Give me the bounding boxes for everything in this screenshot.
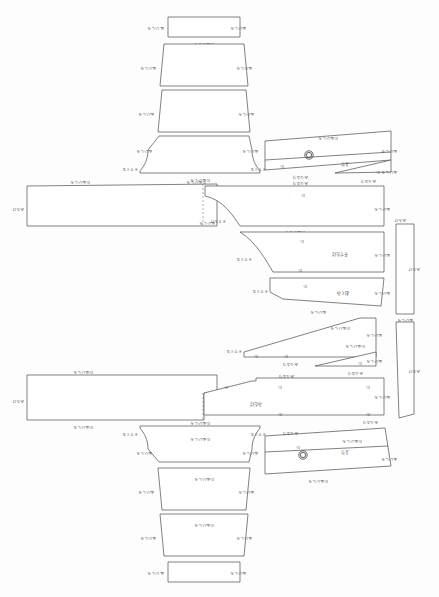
piece-top-trapezoid-upper[interactable]: ぬいしろ ぬいしろ わぬいしろ [139,44,252,96]
edge-label: みたけ [12,207,24,212]
edge-label: わぬいしろ [73,370,94,375]
piece-bottom-yoke-curved[interactable]: わぬいしろ そでぐち そでぐち ぬいしろ ぬいしろ わぬいしろ [121,421,266,462]
edge-label: わ [284,354,288,359]
edge-label: ぬいしろ [229,26,246,31]
edge-label: わ [366,385,370,390]
edge-label: ぬいしろ [135,451,152,456]
pattern-sheet: ぬいしろ ぬいしろ わぬいしろ ぬいしろ ぬいしろ わぬいしろ ぬいしろ ぬいし… [0,0,439,597]
edge-label: わ [300,239,304,244]
edge-label: わぬいしろ [308,479,329,484]
edge-label: わ [366,412,370,417]
edge-label: みつおり [282,362,299,367]
edge-label: わ [278,412,282,417]
piece-top-trapezoid-lower[interactable]: ぬいしろ ぬいしろ わぬいしろ [137,90,254,142]
edge-label: わ [298,268,302,273]
edge-label: わ [278,385,282,390]
piece-right-body-panel-upper[interactable]: みつおり ぬいしろ わぬいしろ そでたけ わ [205,181,390,235]
edge-label: そでぐち [249,167,266,172]
edge-label: ぬいしろ [235,536,252,541]
edge-label: わぬいしろ [186,180,207,185]
center-label: わぬいしろ [194,477,215,482]
edge-label: ぬいしろ [373,207,390,212]
edge-label: ぬいしろ [135,149,152,154]
edge-label: みつおり [292,175,309,180]
edge-label: みたけ [408,267,420,272]
edge-label: みつおり [362,420,379,425]
piece-bottom-trapezoid-lower[interactable]: ぬいしろ ぬいしろ わぬいしろ [139,514,252,556]
edge-label: わ [303,284,307,289]
edge-label: みたけ [12,399,24,404]
edge-label: ぬいしろ [237,490,254,495]
edge-label: ぬいしろ [310,310,327,315]
pattern-drawing: ぬいしろ ぬいしろ わぬいしろ ぬいしろ ぬいしろ わぬいしろ ぬいしろ ぬいし… [0,0,439,597]
edge-label: みたけ [408,369,420,374]
edge-label: ぬいしろ [139,536,156,541]
edge-label: ぬいしろ [365,333,382,338]
edge-label: みつおり [292,181,309,186]
edge-label: わぬいしろ [190,421,211,426]
piece-left-main-panel-upper[interactable]: わぬいしろ わぬいしろ みたけ ぬいしろ [12,180,217,226]
edge-label: わぬいしろ [342,439,363,444]
edge-label: ぬいしろ [241,451,258,456]
edge-label: わぬいしろ [330,326,351,331]
edge-label: そでたけ [209,219,226,224]
piece-okumi-panel-upper[interactable]: ぬいしろ そでぐち わ ぬいしろ おくみ [251,278,390,315]
center-label: おくみ [337,290,349,297]
piece-left-main-panel-lower[interactable]: わぬいしろ みたけ わぬいしろ わぬいしろ [12,370,217,430]
edge-label: ぬいしろ [373,253,390,258]
edge-label: ぬいしろ [147,26,164,31]
edge-label: ぬいしろ [365,359,382,364]
edge-label: そでぐち [121,432,138,437]
edge-label: ぬいしろ [373,395,390,400]
edge-label: そでぐち [249,432,266,437]
piece-bottom-band-rect[interactable]: ぬいしろ ぬいしろ [147,562,246,582]
piece-right-strip-lower[interactable]: みたけ [396,322,420,418]
edge-label: ぬいしろ [241,149,258,154]
piece-bottom-collar-band[interactable]: みつおり わぬいしろ ぬいしろ わぬいしろ わ えり [265,428,397,484]
center-label: わぬいしろ [190,437,211,442]
piece-right-strip-upper[interactable]: みたけ みたけ ぬいしろ [394,218,420,323]
edge-label: ぬいしろ [380,149,397,154]
edge-label: わ [358,361,362,366]
edge-label: わ [280,164,284,169]
edge-label: わ [296,445,300,450]
edge-label: わぬいしろ [70,180,91,185]
edge-label: ぬいしろ [380,457,397,462]
edge-label: そでぐち [225,349,242,354]
edge-label: ぬいしろ [137,490,154,495]
edge-label: みたけ [394,218,406,223]
edge-label: ぬいしろ [147,571,164,576]
center-label: そでたけ [332,251,349,258]
piece-bottom-trapezoid-upper[interactable]: ぬいしろ ぬいしろ わぬいしろ [137,468,254,510]
edge-label: わぬいしろ [345,344,366,349]
edge-label: ぬいしろ [137,112,154,117]
edge-label: ぬいしろ [235,66,252,71]
edge-label: わ [376,170,380,175]
center-label: わ [301,193,305,198]
center-label: わぬいしろ [194,523,215,528]
edge-label: そでぐち [251,289,268,294]
edge-label: わぬいしろ [73,425,94,430]
piece-sleeve-panel[interactable]: ぬいしろ そでぐち わ わ そでたけ [235,232,390,273]
edge-label: ぬいしろ [380,170,397,175]
edge-label: みつおり [278,374,295,379]
edge-label: そでぐち [121,167,138,172]
piece-top-yoke-curved[interactable]: ぬいしろ ぬいしろ そでぐち そでぐち わぬいしろ [121,136,266,183]
edge-label: わ [224,385,228,390]
piece-top-band-rect[interactable]: ぬいしろ ぬいしろ わぬいしろ [147,17,246,47]
edge-label: みつおり [347,371,364,376]
piece-right-body-panel-lower[interactable]: みつおり ぬいしろ みつおり わ わ わ わ わ みたけ [204,374,390,425]
edge-label: ぬいしろ [229,571,246,576]
edge-label: わぬいしろ [318,136,339,141]
edge-label: そでぐち [235,257,252,262]
edge-label: みつおり [360,179,377,184]
edge-label: わ [254,354,258,359]
edge-label: ぬいしろ [139,66,156,71]
edge-label: ぬいしろ [373,291,390,296]
edge-label: みつおり [282,431,299,436]
edge-label: ぬいしろ [237,112,254,117]
